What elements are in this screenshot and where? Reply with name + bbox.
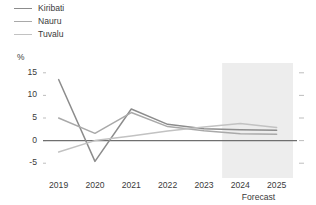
chart-canvas	[0, 0, 316, 205]
chart-root: Kiribati Nauru Tuvalu % 151050-5 2019202…	[0, 0, 316, 205]
x-tick-label: 2025	[260, 180, 294, 190]
x-tick-label: 2021	[114, 180, 148, 190]
y-axis-unit-label: %	[17, 52, 24, 62]
forecast-caption: Forecast	[228, 192, 288, 202]
y-tick-label: 0	[13, 135, 37, 145]
y-tick-label: -5	[13, 157, 37, 167]
y-tick-label: 5	[13, 112, 37, 122]
x-tick-label: 2020	[78, 180, 112, 190]
x-tick-label: 2022	[151, 180, 185, 190]
x-tick-label: 2019	[42, 180, 76, 190]
x-tick-label: 2024	[223, 180, 257, 190]
y-tick-label: 10	[13, 89, 37, 99]
y-tick-label: 15	[13, 67, 37, 77]
chart-plot-area: % 151050-5 2019202020212022202320242025 …	[0, 0, 316, 205]
forecast-band	[222, 63, 293, 178]
x-tick-label: 2023	[187, 180, 221, 190]
